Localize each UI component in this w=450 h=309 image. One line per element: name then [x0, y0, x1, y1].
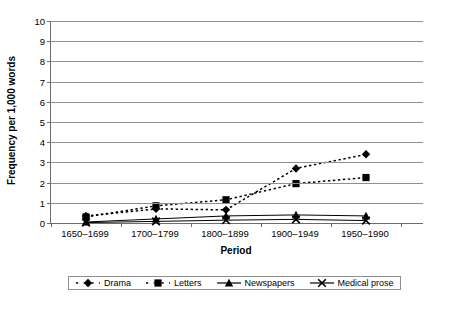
gridline: [51, 203, 423, 204]
y-axis-tick-label: 2: [22, 177, 48, 188]
gridline: [51, 21, 423, 22]
y-axis-tick-mark: [47, 41, 51, 42]
legend: DramaLettersNewspapersMedical prose: [68, 276, 401, 290]
y-axis-tick-mark: [47, 61, 51, 62]
gridline: [51, 162, 423, 163]
gridline: [51, 122, 423, 123]
y-axis-tick-label: 4: [22, 137, 48, 148]
y-axis-tick-label: 3: [22, 157, 48, 168]
y-axis-tick-mark: [47, 21, 51, 22]
x-axis-tick-mark: [401, 223, 402, 227]
y-axis-tick-mark: [47, 102, 51, 103]
x-axis-tick-label: 1950–1990: [341, 228, 389, 239]
legend-item-medical-prose[interactable]: Medical prose: [309, 278, 394, 288]
series-newspapers: [82, 211, 370, 226]
y-axis-tick-mark: [47, 122, 51, 123]
x-axis-tick-labels: 1650–16991700–17991800–18991900–19491950…: [50, 228, 422, 242]
x-axis-tick-label: 1800–1899: [201, 228, 249, 239]
legend-marker-diamond-icon: [75, 278, 101, 288]
y-axis-tick-mark: [47, 162, 51, 163]
data-point-diamond: [84, 279, 92, 287]
legend-label: Newspapers: [245, 278, 295, 288]
x-axis-title: Period: [50, 245, 422, 256]
data-point-diamond: [292, 164, 300, 172]
legend-marker-square-icon: [145, 278, 171, 288]
data-point-square: [362, 174, 369, 181]
y-axis-tick-label: 9: [22, 36, 48, 47]
legend-label: Letters: [174, 278, 202, 288]
gridline: [51, 82, 423, 83]
x-axis-title-label: Period: [220, 245, 251, 256]
y-axis-tick-label: 7: [22, 76, 48, 87]
data-point-square: [292, 180, 299, 187]
gridline: [51, 142, 423, 143]
plot-area: [50, 21, 423, 224]
legend-item-drama[interactable]: Drama: [75, 278, 131, 288]
x-axis-tick-label: 1700–1799: [131, 228, 179, 239]
series-drama: [82, 150, 370, 220]
chart-container: Frequency per 1,000 words 012345678910 1…: [0, 0, 450, 309]
y-axis-tick-label: 6: [22, 96, 48, 107]
data-point-square: [154, 279, 161, 286]
y-axis-tick-mark: [47, 203, 51, 204]
y-axis-tick-label: 10: [22, 16, 48, 27]
gridline: [51, 102, 423, 103]
y-axis-tick-mark: [47, 142, 51, 143]
legend-marker-triangle-icon: [216, 278, 242, 288]
y-axis-tick-label: 8: [22, 56, 48, 67]
gridline: [51, 61, 423, 62]
y-axis-tick-labels: 012345678910: [22, 0, 48, 309]
legend-label: Drama: [104, 278, 131, 288]
y-axis-tick-label: 1: [22, 197, 48, 208]
y-axis-tick-mark: [47, 183, 51, 184]
y-axis-tick-label: 0: [22, 218, 48, 229]
x-axis-tick-mark: [261, 223, 262, 227]
x-axis-tick-mark: [51, 223, 52, 227]
x-axis-tick-label: 1900–1949: [271, 228, 319, 239]
x-axis-tick-mark: [331, 223, 332, 227]
legend-label: Medical prose: [338, 278, 394, 288]
x-axis-tick-label: 1650–1699: [61, 228, 109, 239]
legend-item-newspapers[interactable]: Newspapers: [216, 278, 295, 288]
y-axis-title-label: Frequency per 1,000 words: [6, 56, 17, 185]
gridline: [51, 41, 423, 42]
y-axis-tick-label: 5: [22, 117, 48, 128]
x-axis-tick-mark: [191, 223, 192, 227]
y-axis-tick-mark: [47, 82, 51, 83]
legend-marker-x-icon: [309, 278, 335, 288]
x-axis-tick-mark: [121, 223, 122, 227]
data-point-diamond: [362, 150, 370, 158]
legend-item-letters[interactable]: Letters: [145, 278, 202, 288]
y-axis-title: Frequency per 1,000 words: [0, 0, 22, 240]
gridline: [51, 183, 423, 184]
